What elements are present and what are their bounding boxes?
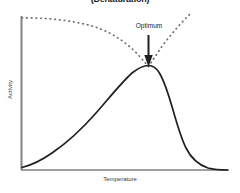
x-axis-label: Temperature — [80, 176, 160, 183]
chart-title: (Denaturation) — [0, 0, 240, 4]
y-axis-label: Activity — [7, 68, 14, 112]
activity-curve-solid — [22, 66, 228, 171]
enzyme-activity-temperature-figure: (Denaturation) Optimum Temperature Activ… — [0, 0, 240, 193]
optimum-annotation-label: Optimum — [120, 22, 178, 30]
denaturation-curve-dotted — [22, 12, 192, 67]
